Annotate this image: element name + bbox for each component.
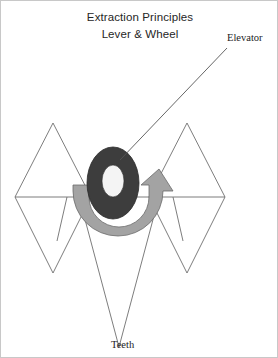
elevator-leader-line — [120, 48, 227, 160]
extraction-principles-diagram — [1, 1, 278, 358]
lower-right-triangle — [149, 197, 225, 273]
left-root-spur — [57, 197, 67, 241]
elevator-ring-group — [87, 147, 139, 219]
figure-canvas: Extraction Principles Lever & Wheel Elev… — [0, 0, 278, 358]
label-teeth: Teeth — [111, 339, 134, 350]
elevator-ring-inner-hole — [102, 165, 124, 197]
label-elevator: Elevator — [227, 32, 263, 43]
right-root-spur — [173, 197, 183, 241]
